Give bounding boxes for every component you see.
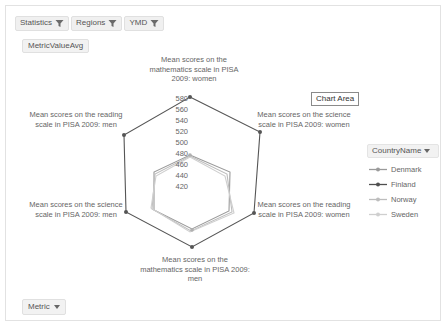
metric-dropdown[interactable]: Metric — [22, 299, 66, 315]
tick-label: 560 — [162, 105, 188, 114]
slicer-regions[interactable]: Regions — [71, 16, 122, 31]
legend-item[interactable]: Sweden — [367, 207, 439, 222]
tick-label: 440 — [162, 171, 188, 180]
legend-item-label: Denmark — [391, 165, 421, 174]
funnel-icon[interactable] — [150, 19, 159, 28]
funnel-icon[interactable] — [55, 19, 64, 28]
chevron-down-icon[interactable] — [424, 149, 430, 153]
tick-label: 480 — [162, 149, 188, 158]
axis-label-mathematics-women: Mean scores on the mathematics scale in … — [142, 55, 246, 84]
tick-label: 460 — [162, 160, 188, 169]
axis-label-science-women: Mean scores on the science scale in PISA… — [252, 110, 356, 129]
legend-title[interactable]: CountryName — [367, 144, 439, 158]
tick-label: 520 — [162, 127, 188, 136]
legend-item[interactable]: Norway — [367, 192, 439, 207]
slicer-ymd-label: YMD — [129, 18, 147, 28]
legend-item-label: Finland — [391, 180, 416, 189]
chart-area-tooltip: Chart Area — [311, 92, 359, 106]
axis-label-science-men: Mean scores on the science scale in PISA… — [24, 200, 128, 219]
legend-swatch-denmark — [369, 166, 387, 173]
app-window: Statistics Regions YMD MetricValueAvg — [5, 5, 441, 321]
radar-chart: 580 560 540 520 500 480 460 440 420 Mean… — [14, 52, 364, 294]
funnel-icon[interactable] — [108, 19, 117, 28]
legend-swatch-norway — [369, 196, 387, 203]
chevron-down-icon[interactable] — [54, 305, 60, 309]
slicer-statistics[interactable]: Statistics — [15, 16, 69, 31]
slicer-regions-label: Regions — [76, 18, 105, 28]
filter-bar: Statistics Regions YMD — [15, 16, 166, 31]
slicer-ymd[interactable]: YMD — [124, 16, 164, 31]
axis-label-reading-women: Mean scores on the reading scale in PISA… — [252, 200, 356, 219]
axis-label-mathematics-men: Mean scores on the mathematics scale in … — [140, 255, 250, 284]
legend-title-label: CountryName — [372, 146, 421, 155]
tick-label: 500 — [162, 138, 188, 147]
tick-label: 580 — [162, 94, 188, 103]
tick-label: 540 — [162, 116, 188, 125]
metric-value-chip[interactable]: MetricValueAvg — [22, 39, 89, 53]
legend-item[interactable]: Denmark — [367, 162, 439, 177]
legend-swatch-finland — [369, 181, 387, 188]
axis-label-reading-men: Mean scores on the reading scale in PISA… — [24, 110, 128, 129]
tick-label: 420 — [162, 182, 188, 191]
slicer-statistics-label: Statistics — [20, 18, 52, 28]
legend: CountryName Denmark Finland Norway S — [367, 144, 439, 222]
metric-dropdown-label: Metric — [28, 302, 50, 311]
legend-item-label: Sweden — [391, 210, 418, 219]
legend-item-label: Norway — [391, 195, 416, 204]
series-polygon-finland — [124, 97, 260, 247]
legend-item[interactable]: Finland — [367, 177, 439, 192]
legend-swatch-sweden — [369, 211, 387, 218]
